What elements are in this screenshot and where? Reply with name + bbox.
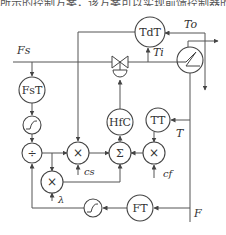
t-label: T xyxy=(176,127,185,140)
multiplier-block-1: × xyxy=(67,142,89,164)
sum-block: Σ xyxy=(109,142,131,164)
cs-label: cs xyxy=(84,166,95,177)
multiplier-block-3: × xyxy=(41,171,63,193)
ti-label: Ti xyxy=(153,46,164,59)
multiply-icon: × xyxy=(73,146,83,160)
hfc-block: HfC xyxy=(107,109,133,135)
fs-label: Fs xyxy=(16,44,31,57)
sqrt-block-2 xyxy=(84,199,102,217)
f-label: F xyxy=(193,207,202,220)
divider-block: ÷ xyxy=(22,143,42,163)
valve-actuator-icon xyxy=(113,70,127,77)
to-label: To xyxy=(184,18,197,31)
control-diagram: TdT FsT HfC TT ÷ × Σ × × FT xyxy=(0,0,226,235)
tdt-label: TdT xyxy=(139,26,161,39)
cf-label: cf xyxy=(163,168,175,179)
fst-label: FsT xyxy=(22,84,43,97)
sum-icon: Σ xyxy=(116,147,124,160)
fst-block: FsT xyxy=(19,77,45,103)
control-valve xyxy=(112,56,128,77)
tt-label: TT xyxy=(151,114,167,127)
tdt-block: TdT xyxy=(135,17,165,47)
multiply-icon: × xyxy=(47,175,57,189)
outlet-arrow xyxy=(188,41,218,47)
lambda-label: λ xyxy=(57,194,64,205)
heat-exchanger xyxy=(177,47,203,73)
hfc-label: HfC xyxy=(109,116,131,129)
multiply-icon: × xyxy=(149,146,159,160)
divide-icon: ÷ xyxy=(27,147,36,160)
ft-block: FT xyxy=(127,195,153,221)
ft-label: FT xyxy=(133,202,149,215)
multiplier-block-2: × xyxy=(143,142,165,164)
tt-block: TT xyxy=(146,108,170,132)
sqrt-block-1 xyxy=(23,116,41,134)
